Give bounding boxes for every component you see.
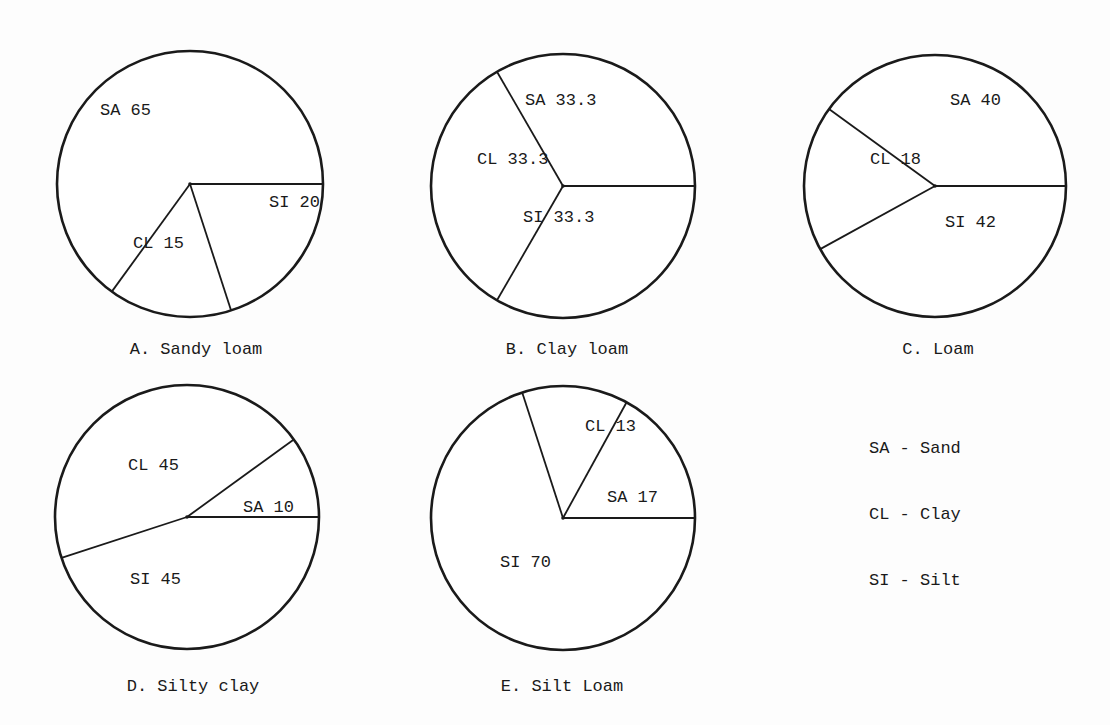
slice-label-cl: CL 45: [128, 456, 179, 475]
slice-label-sa: SA 65: [100, 101, 151, 120]
slice-label-si: SI 45: [130, 570, 181, 589]
pie-loam: SI 42CL 18SA 40: [804, 55, 1066, 317]
slice-label-sa: SA 17: [607, 488, 658, 507]
slice-label-si: SI 33.3: [523, 208, 594, 227]
center-dot: [933, 184, 937, 188]
caption-clay-loam: B. Clay loam: [506, 340, 628, 359]
slice-label-cl: CL 13: [585, 417, 636, 436]
center-dot: [561, 184, 565, 188]
pie-charts-canvas: SI 20CL 15SA 65SI 33.3CL 33.3SA 33.3SI 4…: [0, 0, 1110, 725]
caption-loam: C. Loam: [902, 340, 973, 359]
slice-label-si: SI 42: [945, 213, 996, 232]
legend-item-silt: SI - Silt: [869, 571, 961, 590]
slice-label-si: SI 20: [269, 193, 320, 212]
caption-silt-loam: E. Silt Loam: [501, 677, 623, 696]
slice-label-cl: CL 15: [133, 234, 184, 253]
slice-label-cl: CL 33.3: [477, 150, 548, 169]
center-dot: [561, 516, 565, 520]
caption-sandy-loam: A. Sandy loam: [130, 340, 263, 359]
slice-label-cl: CL 18: [870, 150, 921, 169]
slice-label-sa: SA 33.3: [525, 91, 596, 110]
pie-sandy-loam: SI 20CL 15SA 65: [57, 51, 323, 317]
pie-silt-loam: SI 70CL 13SA 17: [431, 386, 695, 650]
slice-label-sa: SA 10: [243, 498, 294, 517]
center-dot: [185, 515, 189, 519]
slice-label-sa: SA 40: [950, 91, 1001, 110]
legend-item-clay: CL - Clay: [869, 505, 961, 524]
slice-label-si: SI 70: [500, 553, 551, 572]
center-dot: [188, 182, 192, 186]
caption-silty-clay: D. Silty clay: [127, 677, 260, 696]
legend-item-sand: SA - Sand: [869, 439, 961, 458]
soil-texture-pie-figure: SI 20CL 15SA 65SI 33.3CL 33.3SA 33.3SI 4…: [0, 0, 1110, 725]
pie-silty-clay: SI 45CL 45SA 10: [55, 385, 319, 649]
pie-clay-loam: SI 33.3CL 33.3SA 33.3: [431, 54, 695, 318]
